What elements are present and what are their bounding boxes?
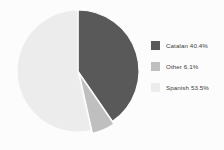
legend-swatch-catalan [151, 41, 160, 50]
legend-item-catalan[interactable]: Catalan 40.4% [151, 41, 224, 50]
legend-label-spanish: Spanish 53.5% [166, 83, 209, 92]
legend-item-spanish[interactable]: Spanish 53.5% [151, 83, 224, 92]
pie-plot-area [0, 0, 150, 150]
pie-slice-group [17, 10, 139, 133]
legend-swatch-other [151, 62, 160, 71]
legend-label-catalan: Catalan 40.4% [166, 41, 208, 50]
chart-legend: Catalan 40.4% Other 6.1% Spanish 53.5% [151, 41, 224, 92]
legend-swatch-spanish [151, 83, 160, 92]
legend-item-other[interactable]: Other 6.1% [151, 62, 224, 71]
pie-svg [0, 0, 150, 150]
legend-label-other: Other 6.1% [166, 62, 198, 71]
pie-chart: Catalan 40.4% Other 6.1% Spanish 53.5% [0, 0, 224, 150]
